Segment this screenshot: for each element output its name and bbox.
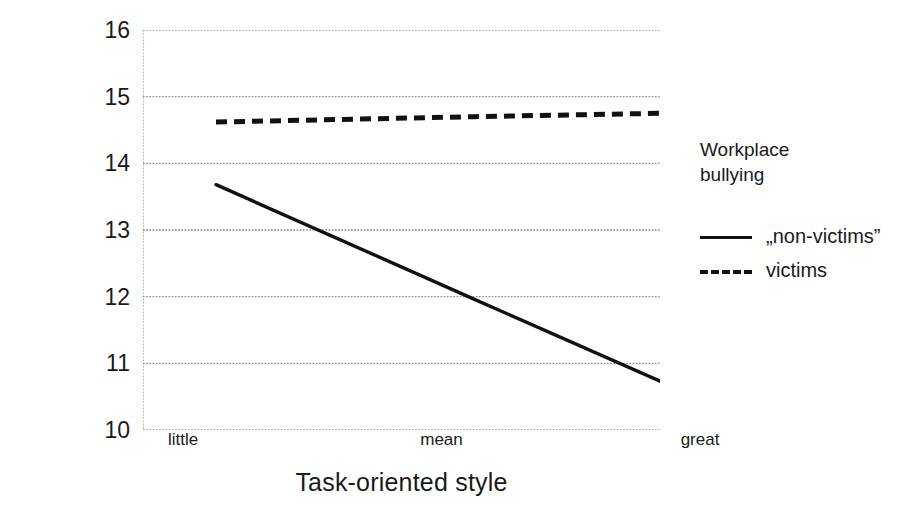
x-axis-title: Task-oriented style	[143, 468, 660, 497]
legend-title-line-1: Workplace	[700, 139, 789, 160]
x-axis-tick-label: great	[681, 430, 720, 450]
x-axis-tick-label: mean	[420, 430, 463, 450]
y-axis-tick-label: 15	[70, 85, 130, 108]
y-axis-tick-label: 10	[70, 419, 130, 442]
y-axis-tick-label: 11	[70, 352, 130, 375]
y-axis-tick-label: 14	[70, 152, 130, 175]
y-axis-tick-label: 13	[70, 219, 130, 242]
chart-figure: Mental health disorders 16151413121110 l…	[0, 0, 920, 519]
legend-title: Workplacebullying	[700, 138, 915, 187]
y-axis-tick-label: 16	[70, 19, 130, 42]
legend-label-victims: victims	[766, 259, 827, 282]
legend-item-victims: victims	[700, 255, 915, 285]
y-axis-tick-label: 12	[70, 285, 130, 308]
plot-area	[143, 30, 660, 430]
legend-title-line-2: bullying	[700, 164, 764, 185]
legend-item-non-victims: „non-victims”	[700, 221, 915, 251]
gridlines	[143, 30, 660, 430]
series-line-victims	[216, 112, 660, 122]
legend-line-sample-dashed-icon	[700, 263, 752, 277]
legend: Workplacebullying „non-victims” victims	[700, 138, 915, 289]
x-axis-tick-label: little	[168, 430, 198, 450]
legend-label-non-victims: „non-victims”	[766, 225, 880, 248]
legend-line-sample-solid-icon	[700, 229, 752, 243]
data-series-layer	[216, 112, 660, 413]
series-line-non-victims	[216, 185, 660, 414]
y-axis-tick-labels: 16151413121110	[60, 0, 130, 519]
